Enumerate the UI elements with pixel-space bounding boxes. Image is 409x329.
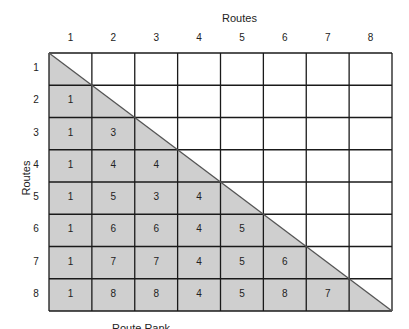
matrix-cell-value: 5: [221, 288, 264, 299]
matrix-cell-value: 4: [92, 159, 135, 170]
matrix-cell-value: 7: [92, 256, 135, 267]
matrix-cell-value: 8: [263, 288, 306, 299]
matrix-cell-value: 5: [221, 223, 264, 234]
matrix-cell-value: 1: [49, 159, 92, 170]
matrix-cell-value: 4: [135, 159, 178, 170]
matrix-cell-value: 5: [92, 191, 135, 202]
matrix-cell-value: 4: [178, 191, 221, 202]
matrix-cell-value: 8: [92, 288, 135, 299]
matrix-cell-value: 3: [135, 191, 178, 202]
matrix-cell-value: 6: [135, 223, 178, 234]
matrix-cell-value: 6: [92, 223, 135, 234]
matrix-cell-value: 7: [135, 256, 178, 267]
matrix-cell-value: 1: [49, 127, 92, 138]
matrix-cell-value: 1: [49, 191, 92, 202]
matrix-cell-value: 1: [49, 288, 92, 299]
footer-caption: Route Rank: [112, 322, 170, 329]
matrix-cell-value: 1: [49, 256, 92, 267]
matrix-cell-value: 3: [92, 127, 135, 138]
matrix-cell-value: 1: [49, 94, 92, 105]
matrix-cell-value: 4: [178, 223, 221, 234]
matrix-cell-value: 4: [178, 256, 221, 267]
matrix-cell-value: 6: [263, 256, 306, 267]
matrix-cell-value: 1: [49, 223, 92, 234]
matrix-cell-value: 4: [178, 288, 221, 299]
matrix-cell-value: 7: [306, 288, 349, 299]
matrix-cell-value: 5: [221, 256, 264, 267]
matrix-cell-value: 8: [135, 288, 178, 299]
